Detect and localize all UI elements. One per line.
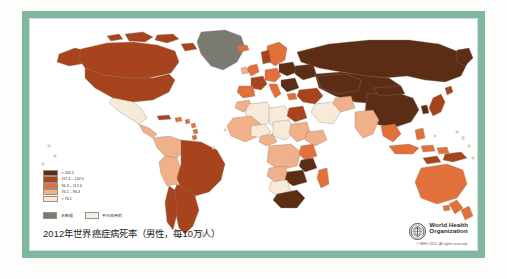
legend-label-no-data: 无数据 bbox=[61, 212, 73, 218]
legend-special: 无数据 不可应用的 bbox=[43, 212, 134, 219]
legend: > 142.5 117.4 – 142.5 96.3 – 117.4 76.1 … bbox=[43, 170, 163, 202]
legend-swatch bbox=[43, 176, 58, 182]
legend-label: > 142.5 bbox=[62, 170, 74, 176]
legend-item-no-data: 无数据 bbox=[43, 212, 73, 219]
legend-label: 117.4 – 142.5 bbox=[62, 176, 84, 182]
legend-swatch-no-data bbox=[43, 212, 57, 219]
legend-item-not-applicable: 不可应用的 bbox=[85, 212, 123, 219]
legend-swatch bbox=[43, 183, 58, 189]
legend-label: < 76.1 bbox=[62, 196, 72, 202]
legend-swatch bbox=[43, 196, 58, 202]
legend-label-not-applicable: 不可应用的 bbox=[102, 212, 122, 218]
legend-swatch-not-applicable bbox=[85, 212, 99, 219]
legend-item: < 76.1 bbox=[43, 196, 163, 202]
who-branding: World Health Organization bbox=[409, 222, 468, 240]
figure-root: .c0{fill:#5b2d14;} .c1{fill:#a8441d;} .c… bbox=[0, 0, 507, 279]
legend-label: 96.3 – 117.4 bbox=[62, 183, 82, 189]
copyright-notice: © WHO 2015. All rights reserved. bbox=[416, 242, 468, 246]
who-line-2: Organization bbox=[429, 228, 468, 234]
legend-label: 76.1 – 96.3 bbox=[62, 189, 81, 195]
who-wordmark: World Health Organization bbox=[429, 222, 468, 234]
legend-swatch bbox=[43, 189, 58, 195]
legend-swatch bbox=[43, 170, 58, 176]
map-title: 2012年世界癌症病死率（男性，每10万人） bbox=[43, 226, 220, 240]
who-emblem-icon bbox=[409, 223, 426, 240]
map-frame: .c0{fill:#5b2d14;} .c1{fill:#a8441d;} .c… bbox=[22, 11, 485, 258]
